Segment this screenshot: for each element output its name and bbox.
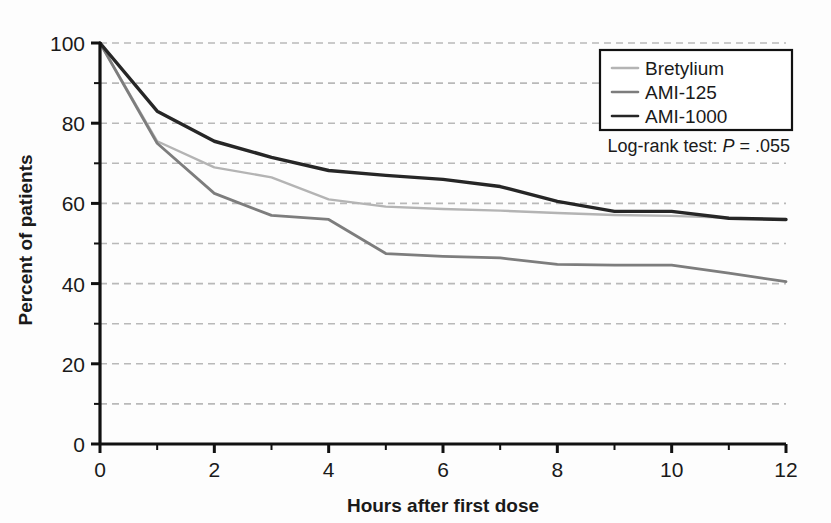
x-axis-tick-label: 10 xyxy=(660,458,683,481)
x-axis-title: Hours after first dose xyxy=(347,495,539,516)
survival-curve-chart: 020406080100024681012 Hours after first … xyxy=(0,0,831,523)
legend[interactable]: BretyliumAMI-125AMI-1000 xyxy=(600,50,792,130)
legend-item-label[interactable]: AMI-125 xyxy=(645,82,717,103)
y-axis-tick-label: 20 xyxy=(62,353,85,376)
legend-items: BretyliumAMI-125AMI-1000 xyxy=(612,58,727,127)
figure-container: 020406080100024681012 Hours after first … xyxy=(0,0,831,523)
annotation-prefix: Log-rank test: xyxy=(607,136,722,156)
log-rank-annotation: Log-rank test: P = .055 xyxy=(607,136,790,156)
x-axis-tick-label: 12 xyxy=(774,458,797,481)
x-axis-tick-label: 4 xyxy=(323,458,335,481)
y-axis-tick-label: 60 xyxy=(62,192,85,215)
y-axis-title: Percent of patients xyxy=(15,154,36,325)
y-axis-tick-label: 40 xyxy=(62,273,85,296)
annotation-suffix: = .055 xyxy=(734,136,790,156)
y-axis-tick-label: 100 xyxy=(50,32,85,55)
x-axis-tick-label: 2 xyxy=(208,458,220,481)
y-axis-tick-label: 80 xyxy=(62,112,85,135)
legend-item-label[interactable]: AMI-1000 xyxy=(645,106,727,127)
x-axis-tick-label: 0 xyxy=(94,458,106,481)
legend-item-label[interactable]: Bretylium xyxy=(645,58,724,79)
annotation-statistic: P xyxy=(722,136,734,156)
x-axis-tick-label: 6 xyxy=(437,458,449,481)
x-axis-tick-label: 8 xyxy=(551,458,563,481)
y-axis-tick-label: 0 xyxy=(73,433,85,456)
